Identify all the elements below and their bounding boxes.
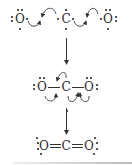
curved-arrow-icon xyxy=(80,93,89,102)
arrows-layer xyxy=(0,0,132,165)
curved-arrow-icon xyxy=(28,21,40,26)
curved-arrow-icon xyxy=(87,8,98,17)
curved-arrow-icon xyxy=(45,94,56,101)
bottom-divider xyxy=(14,162,132,164)
curved-arrow-icon xyxy=(68,93,78,102)
co2-lewis-diagram: O C O O C O xyxy=(0,0,132,165)
curved-arrow-icon xyxy=(42,8,56,17)
curved-arrow-icon xyxy=(74,21,86,26)
curved-arrow-icon xyxy=(57,72,66,81)
